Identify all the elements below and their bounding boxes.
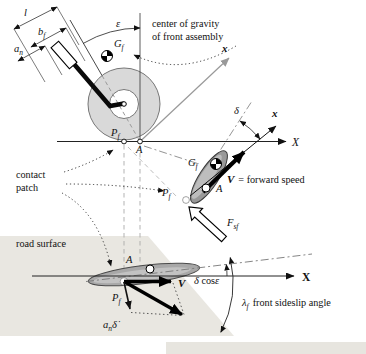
- cog-marker-plan: [211, 159, 222, 170]
- contact-point-label-plan: Pf: [161, 187, 171, 201]
- contact-patch-leader-side: [64, 150, 113, 172]
- cog-label-plan: Gf: [188, 157, 199, 171]
- figure-front-wheel-geometry: l bf an ε Gf center of gravity of front …: [0, 0, 366, 354]
- road-surface-strip: [166, 342, 366, 354]
- cog-label-side: Gf: [114, 38, 125, 52]
- forward-speed-label: V= forward speed: [227, 173, 305, 185]
- dim-l-label: l: [24, 7, 27, 18]
- point-a-label-plan: A: [215, 183, 223, 194]
- effective-steer-label: δcosε: [194, 275, 220, 286]
- ground-X-label-side: X: [291, 136, 300, 148]
- cog-note-line1: center of gravity: [152, 18, 220, 29]
- point-a-label-ground: A: [125, 254, 133, 265]
- side-force-arrow: [189, 207, 226, 242]
- dim-bf-label: bf: [38, 26, 46, 40]
- cog-note-line2: of front assembly: [152, 31, 224, 42]
- ground-X-label-bottom: X: [302, 271, 311, 283]
- point-a-plan: [202, 184, 210, 192]
- rake-angle-arc: [83, 28, 140, 44]
- steer-frame-x-label: x: [221, 42, 228, 54]
- contact-patch-note-line2: patch: [16, 182, 38, 193]
- contact-point-plan: [183, 197, 190, 204]
- sideslip-angle-label: λffront sideslip angle: [241, 297, 331, 311]
- figure-canvas: l bf an ε Gf center of gravity of front …: [0, 0, 366, 354]
- road-surface-label: road surface: [16, 238, 67, 249]
- rake-angle-label: ε: [116, 18, 121, 29]
- dimension-l: [14, 7, 57, 29]
- steer-angle-label: δ: [234, 105, 240, 116]
- point-a-ground: [146, 265, 154, 273]
- steering-head: [51, 41, 77, 69]
- steer-angle-arc: [240, 121, 260, 139]
- contact-patch-leader-plan: [66, 184, 164, 191]
- axis-point-label-side: A: [135, 144, 143, 155]
- side-force-label: Fsf: [226, 217, 239, 231]
- contact-patch-note-line1: contact: [16, 169, 46, 180]
- cog-marker-side: [102, 51, 113, 62]
- wheel-x-label: x: [271, 107, 278, 119]
- hub-dot: [122, 102, 127, 107]
- effective-steer-arc: [226, 264, 227, 276]
- contact-point-side: [122, 139, 127, 144]
- dim-an-label: an: [14, 43, 23, 57]
- extension-line-1: [57, 7, 79, 45]
- cog-note-leader: [134, 46, 236, 65]
